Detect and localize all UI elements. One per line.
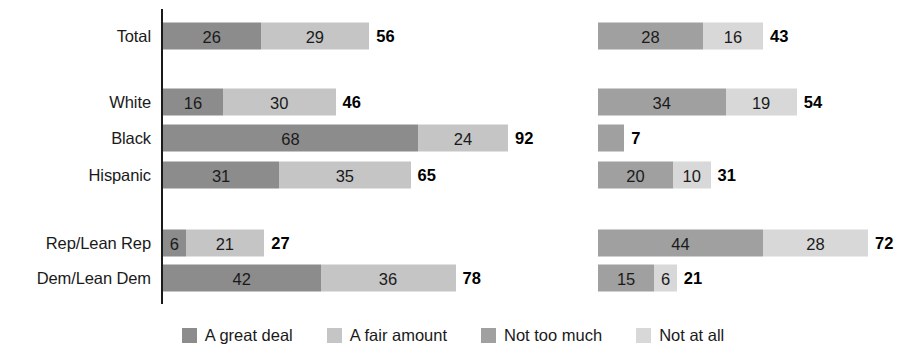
bar-segment-secondary: 35 — [279, 162, 410, 189]
bar-left: 163046 — [163, 89, 336, 116]
segment-value: 6 — [661, 270, 670, 287]
bar-right: 201031 — [598, 162, 711, 189]
segment-value: 20 — [626, 167, 644, 184]
bar-left: 313565 — [163, 162, 411, 189]
bar-segment-secondary: 28 — [763, 230, 868, 257]
segment-value: 36 — [379, 270, 397, 287]
bar-segment-primary: 6 — [163, 230, 186, 257]
bar-total-value: 31 — [711, 162, 736, 189]
bar-segment-primary: 15 — [598, 265, 654, 292]
bar-segment-secondary: 36 — [321, 265, 456, 292]
row-label: Rep/Lean Rep — [46, 234, 151, 253]
bar-total-value: 7 — [624, 125, 640, 152]
legend-swatch-icon — [481, 328, 496, 343]
bar-total-value: 65 — [411, 162, 436, 189]
bar-segment-primary: 44 — [598, 230, 763, 257]
legend-swatch-icon — [327, 328, 342, 343]
bar-total-value: 56 — [369, 23, 394, 50]
row-label: Black — [111, 129, 151, 148]
bar-right: 15621 — [598, 265, 677, 292]
segment-value: 29 — [306, 28, 324, 45]
bar-total-value: 78 — [456, 265, 481, 292]
segment-value: 28 — [641, 28, 659, 45]
bar-segment-secondary: 30 — [223, 89, 336, 116]
bar-segment-primary: 42 — [163, 265, 321, 292]
segment-value: 10 — [683, 167, 701, 184]
bar-segment-primary — [598, 125, 624, 152]
bar-left: 423678 — [163, 265, 456, 292]
row-label: Hispanic — [89, 166, 151, 185]
segment-value: 21 — [216, 235, 234, 252]
segment-value: 26 — [203, 28, 221, 45]
legend-label: Not too much — [504, 326, 602, 345]
bar-segment-primary: 31 — [163, 162, 279, 189]
segment-value: 68 — [281, 130, 299, 147]
bar-total-value: 72 — [868, 230, 893, 257]
row-label: Dem/Lean Dem — [37, 269, 151, 288]
bar-total-value: 92 — [508, 125, 533, 152]
segment-value: 35 — [336, 167, 354, 184]
bar-total-value: 43 — [763, 23, 788, 50]
legend-label: A fair amount — [350, 326, 447, 345]
bar-total-value: 27 — [264, 230, 289, 257]
bar-segment-primary: 68 — [163, 125, 418, 152]
legend-item[interactable]: A great deal — [182, 326, 293, 345]
segment-value: 24 — [454, 130, 472, 147]
chart-legend: A great dealA fair amountNot too muchNot… — [0, 322, 906, 348]
bar-right: 442872 — [598, 230, 868, 257]
bar-segment-secondary: 6 — [654, 265, 677, 292]
bar-total-value: 21 — [677, 265, 702, 292]
legend-label: Not at all — [659, 326, 724, 345]
vertical-axis-line — [161, 9, 163, 304]
bar-segment-primary: 26 — [163, 23, 261, 50]
legend-item[interactable]: Not too much — [481, 326, 602, 345]
legend-item[interactable]: Not at all — [636, 326, 724, 345]
segment-value: 19 — [752, 94, 770, 111]
segment-value: 34 — [653, 94, 671, 111]
bar-left: 682492 — [163, 125, 508, 152]
bar-segment-secondary: 16 — [703, 23, 763, 50]
bar-left: 62127 — [163, 230, 264, 257]
bar-total-value: 46 — [336, 89, 361, 116]
legend-label: A great deal — [205, 326, 293, 345]
bar-segment-secondary: 21 — [186, 230, 265, 257]
legend-item[interactable]: A fair amount — [327, 326, 447, 345]
stacked-bar-chart: TotalWhiteBlackHispanicRep/Lean RepDem/L… — [0, 0, 906, 353]
segment-value: 28 — [806, 235, 824, 252]
bar-right: 281643 — [598, 23, 763, 50]
legend-swatch-icon — [636, 328, 651, 343]
bar-segment-secondary: 24 — [418, 125, 508, 152]
bar-segment-secondary: 10 — [673, 162, 711, 189]
segment-value: 15 — [617, 270, 635, 287]
bar-segment-primary: 28 — [598, 23, 703, 50]
bar-total-value: 54 — [797, 89, 822, 116]
bar-right: 7 — [598, 125, 624, 152]
segment-value: 16 — [724, 28, 742, 45]
bar-segment-primary: 16 — [163, 89, 223, 116]
segment-value: 31 — [212, 167, 230, 184]
bar-left: 262956 — [163, 23, 369, 50]
bar-segment-primary: 20 — [598, 162, 673, 189]
bar-segment-secondary: 19 — [726, 89, 797, 116]
bar-segment-secondary: 29 — [261, 23, 370, 50]
bar-segment-primary: 34 — [598, 89, 726, 116]
row-label-column: TotalWhiteBlackHispanicRep/Lean RepDem/L… — [0, 0, 155, 310]
segment-value: 42 — [233, 270, 251, 287]
row-label: White — [109, 93, 151, 112]
bar-right: 341954 — [598, 89, 797, 116]
segment-value: 16 — [184, 94, 202, 111]
legend-swatch-icon — [182, 328, 197, 343]
row-label: Total — [117, 27, 151, 46]
segment-value: 30 — [270, 94, 288, 111]
segment-value: 44 — [671, 235, 689, 252]
segment-value: 6 — [170, 235, 179, 252]
